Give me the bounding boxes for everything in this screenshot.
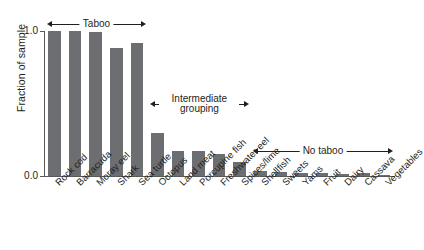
arrow-left-icon: [47, 21, 52, 27]
annotation-label: Intermediate grouping: [159, 93, 239, 114]
arrow-right-icon: [141, 21, 146, 27]
y-axis-tick-mark: [40, 176, 45, 177]
arrow-left-icon: [253, 148, 258, 154]
bar: [131, 43, 144, 176]
annotation-label: Taboo: [80, 19, 113, 30]
group-annotation: Taboo: [47, 17, 147, 31]
y-axis-tick-label: 1.0: [24, 26, 38, 36]
bar-slot: [127, 31, 148, 176]
arrow-right-icon: [388, 148, 393, 154]
bar-slot: [45, 31, 66, 176]
arrow-left-icon: [150, 101, 155, 107]
annotation-label: No taboo: [300, 145, 347, 156]
bar: [48, 31, 61, 176]
arrow-right-icon: [244, 101, 249, 107]
y-axis-tick-label: 0.0: [24, 171, 38, 181]
plot-area: 0.01.0 Rock codBarracudaMoray eelSharkSe…: [45, 31, 395, 176]
group-annotation: No taboo: [253, 144, 394, 158]
group-annotation: Intermediate grouping: [150, 97, 250, 111]
